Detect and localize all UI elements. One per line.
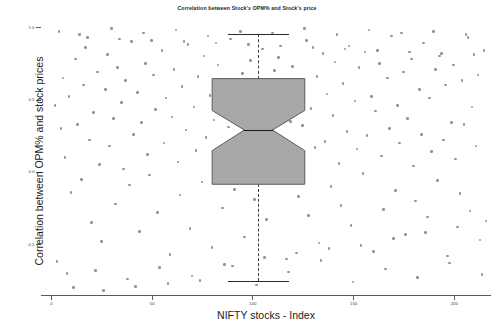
chart-figure: Correlation between Stock's OPM% and Sto… [0, 0, 494, 329]
x-tick: 100 [252, 295, 253, 300]
x-tick: 0 [51, 295, 52, 300]
x-tick-label: 150 [350, 302, 357, 306]
plot-area [41, 20, 490, 295]
median-line [244, 130, 272, 131]
x-tick: 200 [454, 295, 455, 300]
chart-title: Correlation between Stock's OPM% and Sto… [0, 5, 494, 11]
x-tick-label: 200 [451, 302, 458, 306]
x-tick: 50 [152, 295, 153, 300]
x-axis-title: NIFTY stocks - Index [41, 309, 491, 321]
x-tick: 150 [353, 295, 354, 300]
y-axis-title: Correlation between OPM% and stock price… [33, 46, 45, 276]
x-tick-label: 0 [50, 302, 52, 306]
x-tick-label: 50 [150, 302, 155, 306]
x-axis-line [41, 295, 491, 296]
box-notched-shape [41, 20, 490, 295]
y-tick-label: 1.0 [29, 26, 35, 30]
x-tick-label: 100 [249, 302, 256, 306]
